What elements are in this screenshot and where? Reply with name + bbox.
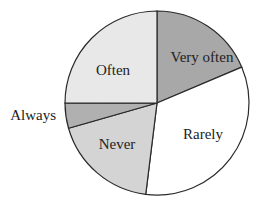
label-often: Often — [96, 62, 131, 78]
pie-slices — [65, 11, 249, 195]
label-very-often: Very often — [171, 49, 234, 65]
slice-often — [65, 11, 157, 103]
label-always: Always — [10, 107, 56, 123]
label-rarely: Rarely — [183, 126, 223, 142]
pie-chart: Very oftenRarelyNeverAlwaysOften — [0, 0, 260, 212]
label-never: Never — [99, 136, 136, 152]
